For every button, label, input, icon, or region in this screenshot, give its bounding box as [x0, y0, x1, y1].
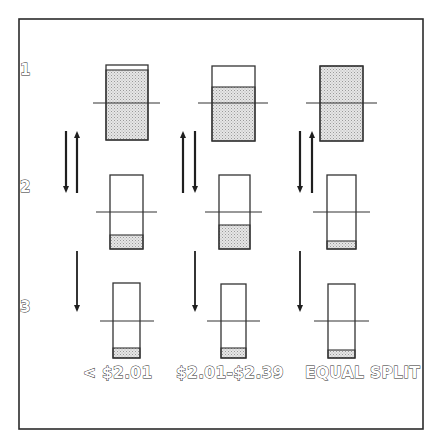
column-labels: < $2.01 $2.01-$2.39 EQUAL SPLIT: [83, 364, 420, 382]
stock-box-c1-r2: [96, 175, 157, 249]
price-split-diagram: 1 2 3 < $2.01 $2.01-$2.39 EQUAL SPLIT: [0, 0, 439, 446]
arrow-down-icon: [74, 251, 80, 312]
stock-box-c2-r3: [207, 284, 260, 358]
boxes-layer: [93, 65, 377, 358]
arrow-down-icon: [297, 131, 303, 193]
row-labels: 1 2 3: [20, 61, 30, 316]
arrow-up-icon: [180, 131, 186, 193]
row-label-1: 1: [20, 61, 30, 79]
stock-box-c1-r1: [93, 65, 160, 140]
column-label-under-2-01: < $2.01: [83, 364, 153, 382]
filled-portion: [328, 350, 355, 358]
filled-portion: [219, 225, 250, 249]
row-label-3: 3: [20, 298, 30, 316]
filled-portion: [106, 70, 148, 140]
stock-box-c2-r1: [198, 66, 268, 141]
filled-portion: [113, 348, 140, 358]
arrow-up-icon: [309, 131, 315, 193]
diagram-canvas: 1 2 3 < $2.01 $2.01-$2.39 EQUAL SPLIT: [0, 0, 439, 446]
arrow-down-icon: [192, 251, 198, 312]
filled-portion: [110, 235, 143, 249]
arrow-down-icon: [63, 131, 69, 193]
stock-box-c3-r1: [306, 66, 377, 141]
stock-box-c2-r2: [205, 175, 262, 249]
arrow-down-icon: [297, 251, 303, 312]
row-label-2: 2: [20, 178, 30, 196]
filled-portion: [212, 87, 255, 141]
column-label-2-01-to-2-39: $2.01-$2.39: [176, 364, 284, 382]
stock-box-c3-r2: [313, 175, 370, 249]
arrow-up-icon: [74, 131, 80, 193]
stock-box-c1-r3: [100, 283, 154, 358]
column-label-equal-split: EQUAL SPLIT: [305, 364, 420, 382]
arrow-down-icon: [192, 131, 198, 193]
arrows-layer: [63, 131, 315, 312]
stock-box-c3-r3: [314, 284, 369, 358]
filled-portion: [327, 241, 356, 249]
filled-portion: [221, 348, 246, 358]
